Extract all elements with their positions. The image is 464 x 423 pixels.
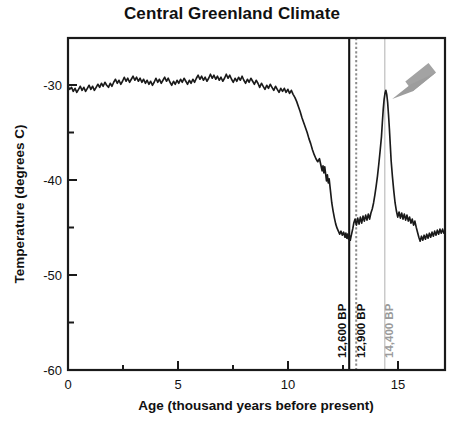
x-tick-label: 0 [64,377,71,392]
y-tick-labels: -30 -40 -50 -60 [43,78,62,378]
event-label-14400bp: 14,400 BP [383,303,395,358]
x-axis-title: Age (thousand years before present) [138,398,374,413]
event-label-12600bp: 12,600 BP [336,303,348,358]
x-tick-labels: 0 5 10 15 [64,377,405,392]
event-label-12900bp: 12,900 BP [355,303,367,358]
x-tick-label: 15 [391,377,405,392]
y-tick-label: -60 [43,363,62,378]
climate-chart-figure: Central Greenland Climate [0,0,464,423]
y-tick-label: -30 [43,78,62,93]
y-tick-label: -50 [43,268,62,283]
y-tick-label: -40 [43,173,62,188]
y-axis-title: Temperature (degrees C) [12,125,27,284]
x-tick-label: 10 [281,377,295,392]
x-tick-label: 5 [174,377,181,392]
chart-plot-area: -30 -40 -50 -60 0 5 10 15 Age (thousand … [0,0,464,423]
